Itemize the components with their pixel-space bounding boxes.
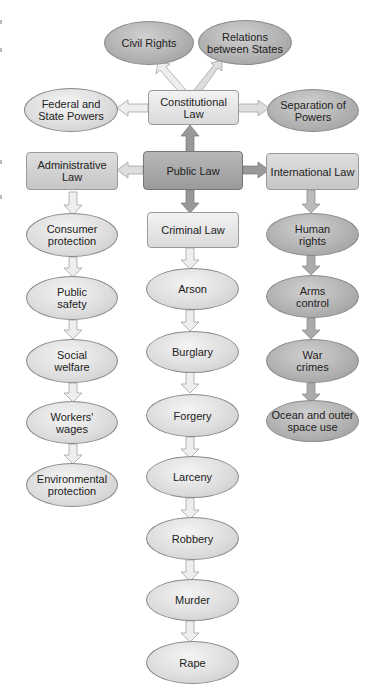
node-label: Workers' wages: [45, 411, 100, 435]
node-label: Murder: [175, 594, 210, 606]
node-label: Consumer protection: [42, 223, 102, 247]
margin-mark: [0, 195, 2, 199]
node-label: Administrative Law: [27, 159, 117, 183]
margin-mark: [0, 160, 2, 164]
node-relations-between-states: Relations between States: [198, 20, 292, 65]
node-label: Robbery: [172, 533, 214, 545]
node-federal-state-powers: Federal and State Powers: [24, 88, 118, 132]
node-workers-wages: Workers' wages: [26, 401, 118, 444]
node-label: Constitutional Law: [156, 96, 231, 120]
node-label: Relations between States: [205, 31, 285, 55]
node-label: Forgery: [174, 410, 212, 422]
node-civil-rights: Civil Rights: [104, 21, 194, 65]
node-arms-control: Arms control: [266, 275, 359, 318]
node-label: Burglary: [172, 346, 213, 358]
node-public-safety: Public safety: [26, 276, 118, 320]
node-label: Federal and State Powers: [36, 98, 106, 122]
node-arson: Arson: [146, 268, 239, 310]
node-label: Environmental protection: [32, 473, 112, 497]
node-label: Civil Rights: [121, 37, 176, 49]
node-label: Ocean and outer space use: [269, 409, 357, 433]
node-constitutional-law: Constitutional Law: [148, 90, 239, 125]
node-label: Arson: [178, 283, 207, 295]
node-criminal-law: Criminal Law: [147, 212, 239, 248]
node-label: Larceny: [173, 471, 212, 483]
node-environmental-protection: Environmental protection: [26, 463, 118, 507]
node-burglary: Burglary: [146, 331, 239, 373]
node-label: Public safety: [47, 286, 97, 310]
node-consumer-protection: Consumer protection: [26, 213, 118, 257]
node-label: War crimes: [288, 349, 338, 373]
node-label: Public Law: [166, 165, 219, 177]
node-human-rights: Human rights: [266, 213, 359, 256]
margin-mark: [0, 48, 2, 52]
node-rape: Rape: [146, 641, 239, 684]
node-larceny: Larceny: [146, 456, 239, 498]
node-forgery: Forgery: [146, 394, 239, 437]
node-separation-of-powers: Separation of Powers: [267, 89, 359, 132]
node-war-crimes: War crimes: [266, 339, 359, 383]
node-murder: Murder: [146, 579, 239, 621]
node-social-welfare: Social welfare: [26, 339, 118, 383]
node-label: Separation of Powers: [278, 99, 348, 123]
margin-mark: [0, 20, 2, 24]
node-label: Arms control: [288, 285, 338, 309]
node-label: International Law: [271, 166, 355, 178]
node-label: Social welfare: [47, 349, 97, 373]
node-administrative-law: Administrative Law: [26, 152, 118, 190]
node-label: Criminal Law: [161, 224, 225, 236]
node-label: Rape: [179, 657, 205, 669]
node-ocean-outer-space-use: Ocean and outer space use: [266, 400, 359, 442]
node-robbery: Robbery: [146, 517, 239, 560]
node-international-law: International Law: [266, 153, 359, 190]
node-public-law: Public Law: [143, 151, 243, 190]
node-label: Human rights: [288, 223, 338, 247]
